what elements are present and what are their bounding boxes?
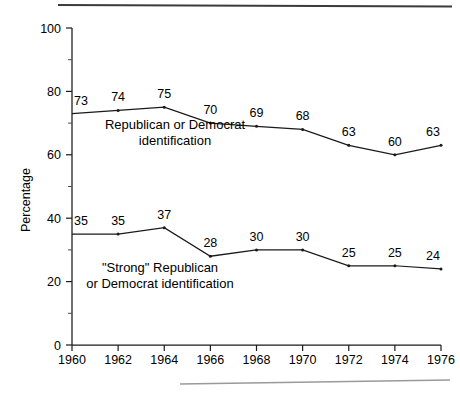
y-tick-label: 80 [47, 85, 61, 99]
data-point-label: 75 [157, 87, 171, 101]
data-point-label: 28 [203, 236, 217, 250]
data-point-label: 30 [296, 230, 310, 244]
x-tick-label: 1972 [335, 353, 363, 367]
data-point-marker [347, 144, 350, 147]
series-annotation-line: or Democrat identification [86, 276, 233, 291]
data-point-label: 60 [388, 135, 402, 149]
data-point-marker [393, 153, 396, 156]
x-tick-label: 1970 [289, 353, 317, 367]
x-tick-label: 1966 [196, 353, 224, 367]
data-point-label: 24 [426, 249, 440, 263]
data-point-label: 35 [111, 214, 125, 228]
data-point-label: 30 [250, 230, 264, 244]
data-point-label: 37 [157, 208, 171, 222]
y-tick-label: 40 [47, 212, 61, 226]
x-tick-label: 1960 [58, 353, 86, 367]
x-tick-label: 1962 [104, 353, 132, 367]
top-divider-rule [58, 5, 452, 7]
data-point-marker [440, 144, 443, 147]
x-tick-label: 1964 [150, 353, 178, 367]
data-point-marker [209, 255, 212, 258]
line-chart: 020406080100 196019621964196619681970197… [0, 0, 460, 395]
data-point-marker [163, 106, 166, 109]
series-annotation-line: "Strong" Republican [102, 260, 218, 275]
data-point-marker [347, 264, 350, 267]
series-annotation-line: identification [139, 133, 211, 148]
data-point-label: 35 [74, 214, 88, 228]
chart-figure: 020406080100 196019621964196619681970197… [0, 0, 460, 395]
data-point-label: 25 [388, 246, 402, 260]
y-tick-label: 100 [40, 22, 61, 36]
data-point-marker [440, 267, 443, 270]
data-point-label: 25 [342, 246, 356, 260]
y-axis-title: Percentage [19, 168, 33, 232]
data-point-label: 63 [426, 125, 440, 139]
data-point-marker [393, 264, 396, 267]
data-point-marker [163, 226, 166, 229]
data-point-label: 63 [342, 125, 356, 139]
x-tick-label: 1976 [427, 353, 455, 367]
y-tick-label: 20 [47, 275, 61, 289]
data-point-label: 68 [296, 109, 310, 123]
data-point-label: 73 [74, 94, 88, 108]
data-point-marker [117, 109, 120, 112]
data-point-label: 74 [111, 90, 125, 104]
data-point-label: 70 [203, 103, 217, 117]
y-tick-label: 60 [47, 148, 61, 162]
x-tick-label: 1968 [243, 353, 271, 367]
data-point-marker [117, 233, 120, 236]
x-axis-tick-labels: 196019621964196619681970197219741976 [58, 353, 455, 367]
data-point-marker [255, 248, 258, 251]
x-tick-label: 1974 [381, 353, 409, 367]
data-point-marker [255, 125, 258, 128]
data-point-marker [301, 128, 304, 131]
data-point-label: 69 [250, 106, 264, 120]
data-point-marker [301, 248, 304, 251]
y-tick-label: 0 [54, 339, 61, 353]
series-annotation-line: Republican or Democrat [105, 117, 246, 132]
